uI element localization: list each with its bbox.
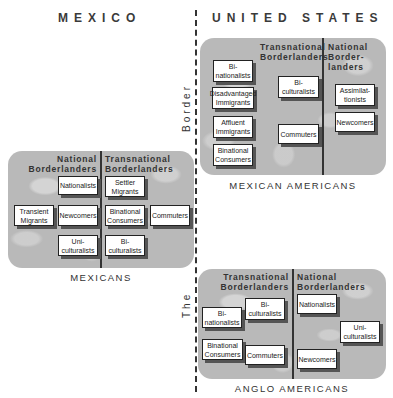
column-header-transnational: Transnational Borderlanders [218, 272, 289, 292]
box-uniculturalists: Uni-culturalists [340, 321, 380, 343]
column-divider [292, 269, 294, 379]
box-commuters: Commuters [278, 124, 319, 144]
column-header-national: National Border- landers [328, 42, 368, 72]
box-binationalists: Bi-nationalists [213, 60, 253, 82]
title-mexico: MEXICO [58, 11, 141, 25]
column-header-national: National Borderlanders [28, 154, 97, 174]
box-biculturalists: Bi-culturalists [245, 298, 285, 320]
box-commuters: Commuters [150, 205, 190, 226]
panel-mexicans: National Borderlanders Transnational Bor… [8, 151, 194, 268]
label-anglo-americans: ANGLO AMERICANS [198, 383, 386, 394]
box-commuters: Commuters [245, 345, 285, 365]
box-newcomers: Newcomers [58, 205, 98, 226]
box-binational-consumers: Binational Consumers [105, 205, 145, 226]
box-binational-consumers: Binational Consumers [202, 339, 243, 360]
column-header-transnational: Transnational Borderlanders [260, 42, 318, 62]
column-header-transnational: Transnational Borderlanders [105, 154, 174, 174]
box-transient-migrants: Transient Migrants [14, 205, 54, 226]
box-binationalists: Bi-nationalists [202, 307, 242, 328]
box-settler-migrants: Settler Migrants [105, 176, 145, 197]
box-newcomers: Newcomers [297, 349, 337, 369]
border-label-border: Border [181, 84, 192, 132]
box-disadvantaged-immigrants: Disadvantaged Immigrants [212, 87, 254, 109]
border-dashed-line [195, 10, 197, 392]
box-biculturalists: Bi-culturalists [105, 235, 145, 256]
box-biculturalists: Bi-culturalists [278, 76, 319, 98]
box-nationalists: Nationalists [58, 176, 98, 195]
border-label-the: The [181, 292, 192, 318]
label-mexicans: MEXICANS [8, 272, 194, 283]
box-nationalists: Nationalists [297, 294, 337, 314]
box-binational-consumers: Binational Consumers [213, 144, 253, 166]
column-divider [100, 151, 102, 268]
title-united-states: UNITED STATES [212, 11, 384, 25]
label-mexican-americans: MEXICAN AMERICANS [200, 180, 386, 191]
panel-anglo-americans: Transnational Borderlanders National Bor… [198, 269, 386, 379]
box-uniculturalists: Uni-culturalists [58, 235, 98, 256]
box-assimilationists: Assimilat-tionists [335, 84, 375, 106]
box-newcomers: Newcomers [335, 112, 375, 132]
column-header-national: National Borderlanders [297, 272, 366, 292]
box-affluent-immigrants: Affluent Immigrants [213, 116, 253, 138]
panel-mexican-americans: Transnational Borderlanders National Bor… [200, 38, 386, 175]
